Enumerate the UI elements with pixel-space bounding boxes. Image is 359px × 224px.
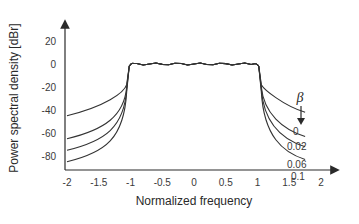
x-tick-label: 0 — [191, 177, 197, 188]
y-tick-label: 20 — [45, 36, 57, 47]
psd-curve-beta-0.02 — [67, 63, 305, 139]
x-tick-label: -1 — [126, 177, 135, 188]
y-axis-label: Power spectral density [dBr] — [7, 23, 21, 172]
x-tick-label: 0.5 — [219, 177, 233, 188]
beta-symbol: β — [296, 90, 304, 105]
x-tick-label: 1 — [255, 177, 261, 188]
y-tick-label: 0 — [50, 59, 56, 70]
beta-arrowhead-icon — [297, 118, 305, 125]
psd-curves — [67, 63, 305, 162]
beta-label: 0.02 — [287, 141, 307, 152]
psd-chart: 200-20-40-60-80 -2-1.5-1-0.500.511.52 00… — [0, 0, 359, 224]
x-tick-labels: -2-1.5-1-0.500.511.52 — [63, 177, 325, 188]
x-tick-label: -0.5 — [154, 177, 172, 188]
beta-label: 0.06 — [287, 159, 307, 170]
y-tick-label: -60 — [42, 128, 57, 139]
beta-label: 0 — [293, 126, 299, 137]
psd-curve-beta-0 — [67, 63, 305, 116]
x-axis-label: Normalized frequency — [136, 194, 253, 208]
x-tick-label: -2 — [63, 177, 72, 188]
y-tick-labels: 200-20-40-60-80 — [42, 36, 57, 162]
beta-labels: 00.020.060.1 — [287, 126, 307, 182]
x-tick-label: -1.5 — [90, 177, 108, 188]
y-tick-label: -40 — [42, 105, 57, 116]
psd-curve-beta-0.06 — [67, 63, 305, 150]
beta-label: 0.1 — [291, 171, 305, 182]
psd-curve-beta-0.1 — [67, 63, 305, 162]
y-tick-label: -80 — [42, 151, 57, 162]
x-tick-label: 2 — [318, 177, 324, 188]
y-tick-label: -20 — [42, 82, 57, 93]
